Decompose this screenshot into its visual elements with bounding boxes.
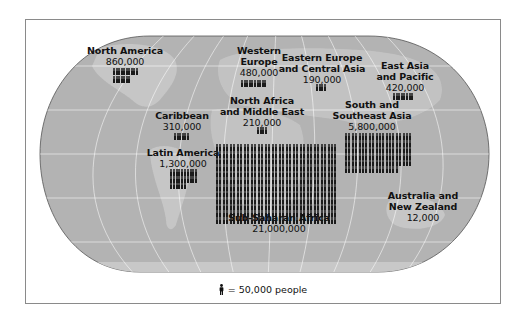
person-icon xyxy=(324,86,326,91)
person-icon xyxy=(379,168,381,173)
region-name: Caribbean xyxy=(155,110,209,121)
person-icon xyxy=(369,168,371,173)
person-icon xyxy=(352,168,354,173)
person-icon xyxy=(382,168,384,173)
person-icon xyxy=(181,184,183,189)
person-icon xyxy=(345,168,347,173)
person-icon xyxy=(113,70,115,75)
person-icon xyxy=(123,70,125,75)
region-east-asia: East Asia and Pacific 420,000 xyxy=(376,60,433,93)
icons-north-africa xyxy=(257,129,267,134)
region-name-line1: Western xyxy=(237,45,281,56)
region-australia: Australia and New Zealand 12,000 xyxy=(388,190,458,223)
person-icon xyxy=(113,78,115,83)
person-icon xyxy=(128,70,130,75)
person-icon xyxy=(118,78,120,83)
person-icon xyxy=(386,168,388,173)
person-icon xyxy=(192,178,194,183)
region-name: Sub-Saharan Africa xyxy=(228,212,330,223)
person-icon xyxy=(118,70,120,75)
region-name: North America xyxy=(87,45,163,56)
person-icon xyxy=(241,82,243,87)
person-icon xyxy=(187,135,189,140)
person-icon xyxy=(331,219,333,224)
person-icon xyxy=(176,184,178,189)
icons-latin-america xyxy=(170,171,198,189)
person-icon xyxy=(123,78,125,83)
person-icon xyxy=(316,86,318,91)
person-icon xyxy=(399,161,401,166)
person-icon xyxy=(195,178,197,183)
person-icon xyxy=(257,129,259,134)
person-icon xyxy=(348,168,350,173)
person-icon xyxy=(179,135,181,140)
region-name-line1: North Africa xyxy=(220,95,304,106)
person-icon xyxy=(372,168,374,173)
region-north-africa: North Africa and Middle East 210,000 xyxy=(220,95,304,128)
person-icon xyxy=(389,168,391,173)
person-icon xyxy=(219,219,221,224)
region-name-line1: Eastern Europe xyxy=(279,52,366,63)
icons-north-america xyxy=(113,70,138,83)
person-icon xyxy=(321,86,323,91)
region-value: 480,000 xyxy=(237,67,281,78)
region-western-europe: Western Europe 480,000 xyxy=(237,45,281,78)
region-eastern-europe: Eastern Europe and Central Asia 190,000 xyxy=(279,52,366,85)
person-icon xyxy=(128,78,130,83)
region-name-line2: New Zealand xyxy=(388,201,458,212)
region-name-line1: East Asia xyxy=(376,60,433,71)
person-icon xyxy=(173,184,175,189)
person-icon xyxy=(334,219,336,224)
region-sub-saharan-africa: Sub-Saharan Africa 21,000,000 xyxy=(228,212,330,234)
person-icon xyxy=(409,161,411,166)
region-name-line1: Australia and xyxy=(388,190,458,201)
person-icon xyxy=(190,178,192,183)
region-name: Latin America xyxy=(147,147,220,158)
icons-south-asia xyxy=(345,135,413,173)
region-value: 5,800,000 xyxy=(332,121,411,132)
person-icon xyxy=(262,129,264,134)
region-north-america: North America 860,000 xyxy=(87,45,163,67)
person-icon xyxy=(246,82,248,87)
icons-caribbean xyxy=(174,135,190,140)
person-icon xyxy=(184,184,186,189)
legend: = 50,000 people xyxy=(0,284,526,296)
person-icon xyxy=(178,184,180,189)
region-name-line2: and Middle East xyxy=(220,106,304,117)
region-latin-america: Latin America 1,300,000 xyxy=(147,147,220,169)
person-icon xyxy=(265,129,267,134)
icons-western-europe xyxy=(241,82,267,87)
region-value: 1,300,000 xyxy=(147,158,220,169)
region-value: 860,000 xyxy=(87,56,163,67)
person-icon xyxy=(365,168,367,173)
region-value: 21,000,000 xyxy=(228,223,330,234)
person-icon xyxy=(223,219,225,224)
region-value: 420,000 xyxy=(376,82,433,93)
legend-text: = 50,000 people xyxy=(228,284,307,295)
person-icon xyxy=(219,284,224,295)
region-name-line2: Southeast Asia xyxy=(332,110,411,121)
region-value: 310,000 xyxy=(155,121,209,132)
person-icon xyxy=(170,184,172,189)
icons-eastern-europe xyxy=(316,86,326,91)
person-icon xyxy=(396,168,398,173)
region-caribbean: Caribbean 310,000 xyxy=(155,110,209,132)
person-icon xyxy=(406,161,408,166)
person-icon xyxy=(362,168,364,173)
person-icon xyxy=(403,161,405,166)
region-name-line2: and Pacific xyxy=(376,71,433,82)
region-value: 12,000 xyxy=(388,212,458,223)
person-icon xyxy=(359,168,361,173)
person-icon xyxy=(392,168,394,173)
person-icon xyxy=(216,219,218,224)
person-icon xyxy=(376,168,378,173)
person-icon xyxy=(187,178,189,183)
region-name-line2: and Central Asia xyxy=(279,63,366,74)
person-icon xyxy=(259,82,261,87)
region-name-line1: South and xyxy=(332,99,411,110)
person-icon xyxy=(264,82,266,87)
region-south-asia: South and Southeast Asia 5,800,000 xyxy=(332,99,411,132)
person-icon xyxy=(174,135,176,140)
person-icon xyxy=(355,168,357,173)
person-icon xyxy=(254,82,256,87)
